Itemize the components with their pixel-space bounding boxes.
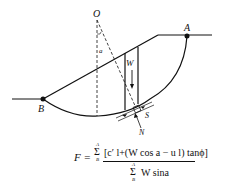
point-a-marker bbox=[185, 34, 190, 39]
angle-arc bbox=[97, 32, 101, 34]
point-a-label: A bbox=[183, 22, 191, 33]
weight-label: W bbox=[126, 58, 135, 68]
factor-of-safety-formula: F = A Σ B [c′ l+(W cos a − u l) tanϕ] A … bbox=[0, 140, 242, 193]
formula-numerator: [c′ l+(W cos a − u l) tanϕ] bbox=[104, 147, 208, 158]
slip-surface-arc bbox=[43, 36, 187, 116]
shear-label: S bbox=[145, 111, 149, 120]
slope-face bbox=[43, 35, 158, 99]
point-b-marker bbox=[41, 97, 46, 102]
formula-lhs: F = bbox=[74, 151, 91, 163]
angle-label: a bbox=[99, 47, 103, 55]
formula-denominator: W sina bbox=[141, 167, 169, 178]
lower-limit-numerator: B bbox=[96, 157, 99, 162]
sum-symbol-denominator: Σ bbox=[130, 166, 136, 177]
weight-arrow-head bbox=[130, 84, 134, 89]
normal-label: N bbox=[138, 128, 145, 137]
lower-limit-denominator: B bbox=[132, 177, 135, 182]
point-b-label: B bbox=[38, 103, 44, 114]
sum-symbol-numerator: Σ bbox=[94, 146, 100, 157]
fraction-bar bbox=[103, 161, 195, 162]
center-label: O bbox=[93, 8, 100, 19]
